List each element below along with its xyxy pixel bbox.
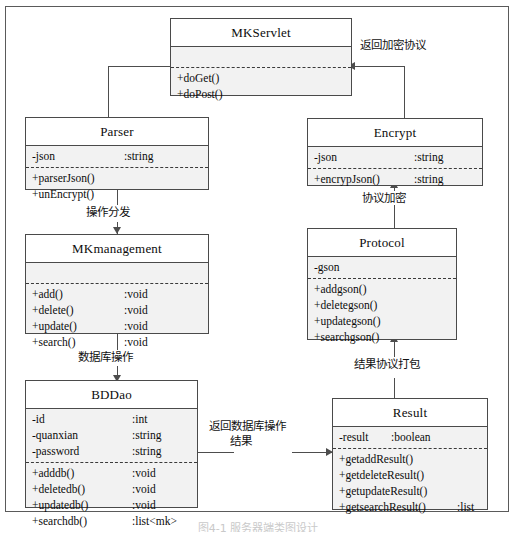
member-type: :int xyxy=(132,411,147,427)
class-member-row: +searchdb() :list<mk> xyxy=(26,513,197,529)
class-member-row: +deletedb() :void xyxy=(26,481,197,497)
class-box-bddao[interactable]: BDDao -id :int -quanxian :string -passwo… xyxy=(25,380,198,508)
class-member-row: +unEncrypt() xyxy=(26,186,208,202)
class-member-row: -quanxian :string xyxy=(26,427,197,443)
class-member-row: +search() :void xyxy=(26,334,208,350)
member-type: :void xyxy=(124,334,148,350)
class-title-bddao: BDDao xyxy=(26,381,197,409)
class-member-row: -result :boolean xyxy=(333,429,487,445)
member-name: +deletedb() xyxy=(32,481,132,497)
class-box-encrypt[interactable]: Encrypt -json :string +encrypJson() :str… xyxy=(307,118,483,186)
class-member-row: +parserJson() xyxy=(26,170,208,186)
class-box-mkservlet[interactable]: MKServlet +doGet() +doPost() xyxy=(170,18,352,96)
class-title-encrypt: Encrypt xyxy=(308,119,482,147)
member-name: +search() xyxy=(32,334,124,350)
member-name: +deletegson() xyxy=(314,297,414,313)
member-name: +add() xyxy=(32,286,124,302)
member-type: :void xyxy=(124,286,148,302)
class-member-row: -id :int xyxy=(26,411,197,427)
class-member-row: +addgson() xyxy=(308,281,456,297)
class-member-row: +encrypJson() :string xyxy=(308,171,482,187)
connector-servlet-parser-stub xyxy=(108,66,109,97)
member-type: :string xyxy=(132,427,161,443)
member-name: -quanxian xyxy=(32,427,132,443)
edge-label-return-db-result-line1: 返回数据库操作 xyxy=(207,419,288,433)
member-name: +getupdateResult() xyxy=(339,483,457,499)
class-methods-mkservlet: +doGet() +doPost() xyxy=(171,67,351,105)
member-type: :list<mk> xyxy=(132,513,177,529)
class-member-row: +adddb() :void xyxy=(26,465,197,481)
class-member-row: +updategson() xyxy=(308,313,456,329)
member-name: +unEncrypt() xyxy=(32,186,124,202)
member-type: :void xyxy=(132,481,156,497)
member-name: -gson xyxy=(314,259,414,275)
member-type: :string xyxy=(414,149,443,165)
member-name: -password xyxy=(32,443,132,459)
class-box-protocol[interactable]: Protocol -gson +addgson() +deletegson() … xyxy=(307,228,457,340)
class-methods-encrypt: +encrypJson() :string xyxy=(308,168,482,190)
connector-encrypt-servlet-vertical xyxy=(404,66,405,120)
class-box-parser[interactable]: Parser -json :string +parserJson() +unEn… xyxy=(25,117,209,190)
member-name: +searchdb() xyxy=(32,513,132,529)
member-type: :string xyxy=(132,443,161,459)
class-attributes-protocol: -gson xyxy=(308,257,456,278)
class-member-row: -json :string xyxy=(26,148,208,164)
class-member-row: +deletegson() xyxy=(308,297,456,313)
member-name: +doPost() xyxy=(177,86,237,102)
member-name: +delete() xyxy=(32,302,124,318)
class-attributes-encrypt: -json :string xyxy=(308,147,482,168)
arrowhead-to-mkmanagement xyxy=(113,227,121,234)
connector-encrypt-servlet-horizontal xyxy=(352,66,404,67)
member-type: :string xyxy=(124,148,153,164)
connector-bddao-result xyxy=(198,452,234,453)
edge-label-return-encrypted-protocol: 返回加密协议 xyxy=(358,38,428,52)
edge-label-result-protocol-package: 结果协议打包 xyxy=(352,357,422,371)
class-member-row: +add() :void xyxy=(26,286,208,302)
class-member-row: +getsearchResult() :list xyxy=(333,499,487,515)
member-type: :void xyxy=(132,497,156,513)
member-type: :void xyxy=(132,465,156,481)
class-title-mkservlet: MKServlet xyxy=(171,19,351,47)
member-name: +adddb() xyxy=(32,465,132,481)
class-box-mkmanagement[interactable]: MKmanagement +add() :void +delete() :voi… xyxy=(25,234,209,334)
member-name: -json xyxy=(32,148,124,164)
member-name: +updategson() xyxy=(314,313,414,329)
class-methods-result: +getaddResult() +getdeleteResult() +getu… xyxy=(333,448,487,518)
class-member-row: -password :string xyxy=(26,443,197,459)
class-attributes-result: -result :boolean xyxy=(333,427,487,448)
class-member-row: +doGet() xyxy=(171,70,351,86)
class-attributes-mkmanagement xyxy=(26,263,208,283)
member-name: +encrypJson() xyxy=(314,171,414,187)
class-member-row: +searchgson() xyxy=(308,329,456,345)
class-box-result[interactable]: Result -result :boolean +getaddResult() … xyxy=(332,398,488,510)
connector-servlet-parser-horizontal xyxy=(108,66,170,67)
class-member-row: +updatedb() :void xyxy=(26,497,197,513)
edge-label-operation-dispatch: 操作分发 xyxy=(84,205,132,219)
uml-class-diagram-canvas: 返回加密协议 操作分发 协议加密 数据库操作 结果协议打包 返回数据库操作 结果… xyxy=(0,0,516,533)
class-member-row: +getdeleteResult() xyxy=(333,467,487,483)
edge-label-protocol-encrypt: 协议加密 xyxy=(360,191,408,205)
member-name: +getdeleteResult() xyxy=(339,467,457,483)
class-attributes-mkservlet xyxy=(171,47,351,67)
class-title-mkmanagement: MKmanagement xyxy=(26,235,208,263)
class-member-row: -json :string xyxy=(308,149,482,165)
member-name: -result xyxy=(339,429,391,445)
class-methods-parser: +parserJson() +unEncrypt() xyxy=(26,167,208,205)
class-title-parser: Parser xyxy=(26,118,208,146)
member-type: :list xyxy=(457,499,474,515)
class-member-row: +doPost() xyxy=(171,86,351,102)
member-name: +update() xyxy=(32,318,124,334)
member-name: -json xyxy=(314,149,414,165)
member-name: +searchgson() xyxy=(314,329,414,345)
member-type: :boolean xyxy=(391,429,431,445)
member-name: +updatedb() xyxy=(32,497,132,513)
member-name: +parserJson() xyxy=(32,170,124,186)
class-methods-mkmanagement: +add() :void +delete() :void +update() :… xyxy=(26,283,208,353)
edge-label-return-db-result-line2: 结果 xyxy=(228,434,254,448)
member-name: +getsearchResult() xyxy=(339,499,457,515)
member-type: :string xyxy=(414,171,443,187)
member-name: +addgson() xyxy=(314,281,414,297)
connector-result-protocol xyxy=(394,378,395,398)
member-type: :void xyxy=(124,318,148,334)
class-member-row: +delete() :void xyxy=(26,302,208,318)
